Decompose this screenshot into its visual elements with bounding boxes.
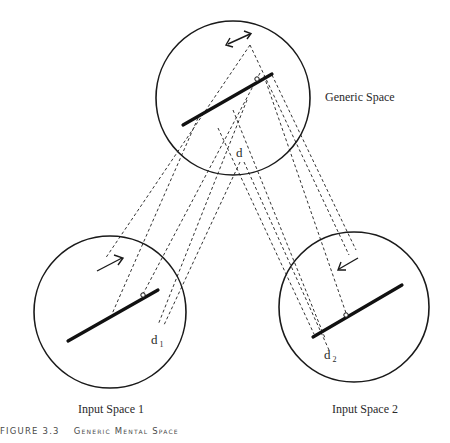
projection-lines (105, 45, 356, 350)
input2-point (344, 313, 348, 317)
figure-number: FIGURE 3.3 (0, 426, 60, 436)
input1-bar (68, 290, 158, 341)
figure-canvas: d Generic Space d1 Input Space 1 d2 Inpu… (0, 0, 450, 443)
generic-bar (183, 74, 272, 125)
projection-line (244, 162, 329, 350)
input-space-2: d2 Input Space 2 (279, 232, 429, 416)
projection-line (143, 73, 260, 294)
double-arrow-icon (226, 31, 251, 47)
projection-line (112, 118, 198, 314)
input2-bar (313, 285, 402, 337)
arrow-left-down-icon (338, 258, 358, 270)
generic-space: d Generic Space (156, 21, 395, 175)
input-space-1-label: Input Space 1 (78, 402, 144, 416)
arrow-right-up-icon (97, 255, 123, 271)
input2-point-label: d2 (324, 347, 337, 364)
projection-line (164, 162, 240, 325)
input1-point (141, 293, 145, 297)
input-space-1: d1 Input Space 1 (34, 236, 186, 416)
generic-space-label: Generic Space (325, 90, 395, 104)
input-space-2-circle (279, 232, 429, 382)
input-space-2-label: Input Space 2 (332, 402, 398, 416)
projection-line (218, 128, 314, 334)
projection-line (158, 100, 247, 325)
generic-point-label: d (236, 145, 243, 160)
figure-caption: FIGURE 3.3Generic Mental Space (0, 426, 179, 436)
figure-title: Generic Mental Space (74, 426, 179, 436)
generic-point (255, 77, 259, 81)
projection-line (264, 76, 346, 313)
mental-space-diagram: d Generic Space d1 Input Space 1 d2 Inpu… (0, 0, 450, 443)
input1-point-label: d1 (151, 332, 164, 349)
